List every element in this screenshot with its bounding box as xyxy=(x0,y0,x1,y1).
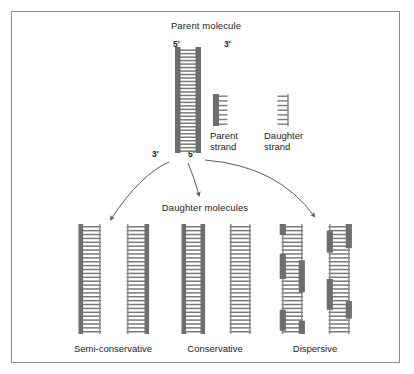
legend-daughter-strand-icon xyxy=(268,94,294,126)
legend-parent-label-line2: strand xyxy=(210,141,236,153)
parent-molecule-graphic xyxy=(166,47,210,153)
left-strand-parent xyxy=(79,224,84,334)
semi-conservative-molecule-2 xyxy=(119,224,155,334)
left-strand-parent-segment xyxy=(327,231,333,253)
conservative-molecule-1 xyxy=(175,224,211,334)
right-strand-parent-segment xyxy=(346,224,352,248)
parent-label-3prime-top-right: 3' xyxy=(224,40,231,49)
right-strand-daughter xyxy=(249,224,250,334)
figure-dna-replication-models: Parent molecule 5' 3' 3' 5' Parent stran… xyxy=(0,0,414,374)
left-strand-parent-segment xyxy=(327,279,333,310)
left-strand-daughter xyxy=(127,224,128,334)
legend-daughter-rungs xyxy=(278,96,289,125)
dna-duplex-svg xyxy=(222,224,258,334)
left-strand-parent-segment xyxy=(280,224,286,235)
dna-duplex-svg xyxy=(119,224,155,334)
right-strand-parent-segment xyxy=(346,301,352,319)
model-label-semi-conservative: Semi-conservative xyxy=(74,343,152,354)
model-label-conservative: Conservative xyxy=(187,343,242,354)
right-strand-parent xyxy=(145,224,150,334)
daughter-strand-icon xyxy=(268,94,294,126)
duplex-rungs xyxy=(230,226,252,333)
parent-molecule-right-strand xyxy=(196,47,202,153)
dispersive-molecule-1 xyxy=(274,224,310,334)
parent-molecule-title: Parent molecule xyxy=(171,20,241,31)
legend-daughter-label-line1: Daughter xyxy=(264,130,303,142)
legend-daughter-bar xyxy=(287,94,289,126)
left-strand-parent xyxy=(182,224,187,334)
legend-daughter-label-line2: strand xyxy=(264,141,290,153)
dna-duplex-svg xyxy=(274,224,310,334)
dna-duplex-svg xyxy=(175,224,211,334)
right-strand-parent xyxy=(201,224,206,334)
model-label-dispersive: Dispersive xyxy=(293,343,337,354)
parent-label-3prime-bottom-left: 3' xyxy=(152,150,159,159)
right-strand-parent-segment xyxy=(299,321,305,334)
legend-parent-bar xyxy=(213,94,219,126)
parent-strand-icon xyxy=(213,94,239,126)
semi-conservative-molecule-1 xyxy=(72,224,108,334)
left-strand-daughter xyxy=(230,224,231,334)
dna-duplex-svg xyxy=(72,224,108,334)
parent-molecule-left-strand xyxy=(175,47,181,153)
parent-molecule-svg xyxy=(166,47,210,153)
conservative-molecule-2 xyxy=(222,224,258,334)
dispersive-molecule-2 xyxy=(321,224,357,334)
right-strand-parent-segment xyxy=(299,260,305,292)
legend-parent-label-line1: Parent xyxy=(210,130,238,142)
legend-parent-strand-icon xyxy=(213,94,239,126)
right-strand-daughter xyxy=(99,224,100,334)
left-strand-parent-segment xyxy=(280,310,286,331)
left-strand-parent-segment xyxy=(280,254,286,279)
dna-duplex-svg xyxy=(321,224,357,334)
daughter-molecules-title: Daughter molecules xyxy=(162,202,248,213)
